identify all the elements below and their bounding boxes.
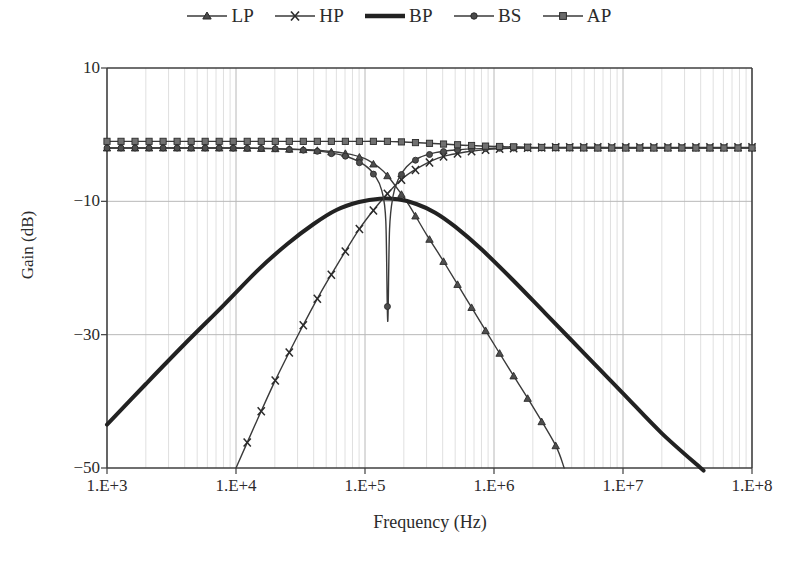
data-point-marker xyxy=(384,304,390,310)
data-point-marker xyxy=(538,418,545,425)
data-point-marker xyxy=(300,147,306,153)
data-point-marker xyxy=(230,138,236,144)
data-point-marker xyxy=(258,138,264,144)
data-point-marker xyxy=(286,348,293,356)
data-point-marker xyxy=(118,138,124,144)
data-point-marker xyxy=(412,157,418,163)
data-point-marker xyxy=(342,138,348,144)
data-point-marker xyxy=(679,145,685,151)
data-point-marker xyxy=(412,212,419,219)
data-point-marker xyxy=(539,144,545,150)
data-point-marker xyxy=(412,139,418,145)
data-point-marker xyxy=(721,145,727,151)
data-point-marker xyxy=(441,149,447,155)
data-point-marker xyxy=(300,321,307,329)
x-tick-label: 1.E+5 xyxy=(320,476,410,496)
data-point-marker xyxy=(370,206,377,214)
data-point-marker xyxy=(693,145,699,151)
data-point-marker xyxy=(398,139,404,145)
data-point-marker xyxy=(244,138,250,144)
data-point-marker xyxy=(342,153,348,159)
x-axis-title: Frequency (Hz) xyxy=(107,512,753,533)
data-point-marker xyxy=(230,145,236,151)
data-point-marker xyxy=(188,138,194,144)
y-tick-label: −50 xyxy=(40,458,100,478)
series-lp xyxy=(103,144,564,468)
x-tick-label: 1.E+6 xyxy=(449,476,539,496)
series-bs xyxy=(104,145,755,321)
x-tick-label: 1.E+7 xyxy=(578,476,668,496)
data-point-marker xyxy=(258,407,265,415)
data-point-marker xyxy=(427,151,433,157)
data-point-marker xyxy=(272,376,279,384)
data-point-marker xyxy=(314,295,321,303)
data-point-marker xyxy=(160,145,166,151)
data-point-marker xyxy=(104,145,110,151)
data-point-marker xyxy=(552,442,559,449)
series-ap xyxy=(104,138,755,151)
data-point-marker xyxy=(146,138,152,144)
data-point-marker xyxy=(384,138,390,144)
data-point-marker xyxy=(496,350,503,357)
data-point-marker xyxy=(160,138,166,144)
data-point-marker xyxy=(595,145,601,151)
data-point-marker xyxy=(609,145,615,151)
data-point-marker xyxy=(202,145,208,151)
data-point-marker xyxy=(637,145,643,151)
data-point-marker xyxy=(426,140,432,146)
data-point-marker xyxy=(132,138,138,144)
data-point-marker xyxy=(174,138,180,144)
data-point-marker xyxy=(623,145,629,151)
data-point-marker xyxy=(272,138,278,144)
data-point-marker xyxy=(581,145,587,151)
data-point-marker xyxy=(440,141,446,147)
data-point-marker xyxy=(665,145,671,151)
data-point-marker xyxy=(202,138,208,144)
data-point-marker xyxy=(567,145,573,151)
y-axis-title: Gain (dB) xyxy=(18,155,38,335)
data-point-marker xyxy=(370,138,376,144)
data-point-marker xyxy=(497,143,503,149)
chart-container: LP HP BP BS xyxy=(0,0,798,563)
data-point-marker xyxy=(258,145,264,151)
data-point-marker xyxy=(553,144,559,150)
data-point-marker xyxy=(328,138,334,144)
data-point-marker xyxy=(468,142,474,148)
series-line xyxy=(107,148,564,468)
data-point-marker xyxy=(216,138,222,144)
data-point-marker xyxy=(412,166,419,174)
data-point-marker xyxy=(314,148,320,154)
data-point-marker xyxy=(132,145,138,151)
data-point-marker xyxy=(146,145,152,151)
data-point-marker xyxy=(454,142,460,148)
x-tick-label: 1.E+8 xyxy=(707,476,797,496)
data-point-marker xyxy=(524,395,531,402)
data-point-marker xyxy=(174,145,180,151)
x-tick-label: 1.E+3 xyxy=(62,476,152,496)
data-point-marker xyxy=(735,145,741,151)
data-point-marker xyxy=(749,145,755,151)
y-tick-label: −10 xyxy=(40,191,100,211)
data-point-marker xyxy=(356,160,362,166)
data-point-marker xyxy=(314,138,320,144)
data-point-marker xyxy=(482,143,488,149)
y-tick-label: 10 xyxy=(40,58,100,78)
data-point-marker xyxy=(651,145,657,151)
data-point-marker xyxy=(510,372,517,379)
data-point-marker xyxy=(707,145,713,151)
data-point-marker xyxy=(525,144,531,150)
data-point-marker xyxy=(398,172,404,178)
data-point-marker xyxy=(216,145,222,151)
data-point-marker xyxy=(511,144,517,150)
y-tick-label: −30 xyxy=(40,325,100,345)
data-point-marker xyxy=(328,271,335,279)
data-point-marker xyxy=(118,145,124,151)
data-point-marker xyxy=(272,146,278,152)
data-point-marker xyxy=(104,138,110,144)
x-tick-label: 1.E+4 xyxy=(191,476,281,496)
data-point-marker xyxy=(188,145,194,151)
data-point-marker xyxy=(244,145,250,151)
data-point-marker xyxy=(370,171,376,177)
data-point-marker xyxy=(244,439,251,447)
data-point-marker xyxy=(440,258,447,265)
